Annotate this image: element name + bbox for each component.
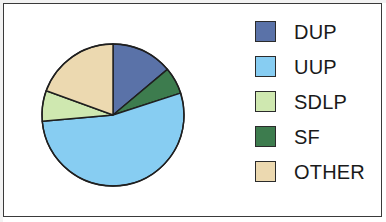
legend-swatch-sdlp bbox=[255, 91, 276, 112]
legend-label-sdlp: SDLP bbox=[294, 92, 347, 112]
legend-item-sdlp[interactable]: SDLP bbox=[255, 84, 383, 119]
legend-swatch-sf bbox=[255, 126, 276, 147]
legend-label-dup: DUP bbox=[294, 22, 337, 42]
pie-chart-svg bbox=[40, 42, 186, 188]
pie-slice-group bbox=[42, 44, 184, 186]
legend-item-other[interactable]: OTHER bbox=[255, 154, 383, 189]
legend-label-other: OTHER bbox=[294, 162, 365, 182]
legend-label-uup: UUP bbox=[294, 57, 337, 77]
legend-label-sf: SF bbox=[294, 127, 320, 147]
legend-item-dup[interactable]: DUP bbox=[255, 14, 383, 49]
chart-legend: DUP UUP SDLP SF OTHER bbox=[255, 14, 383, 189]
legend-item-uup[interactable]: UUP bbox=[255, 49, 383, 84]
figure-screenshot: DUP UUP SDLP SF OTHER bbox=[0, 0, 386, 222]
legend-item-sf[interactable]: SF bbox=[255, 119, 383, 154]
legend-swatch-dup bbox=[255, 21, 276, 42]
legend-swatch-other bbox=[255, 161, 276, 182]
pie-chart bbox=[40, 42, 186, 188]
legend-swatch-uup bbox=[255, 56, 276, 77]
